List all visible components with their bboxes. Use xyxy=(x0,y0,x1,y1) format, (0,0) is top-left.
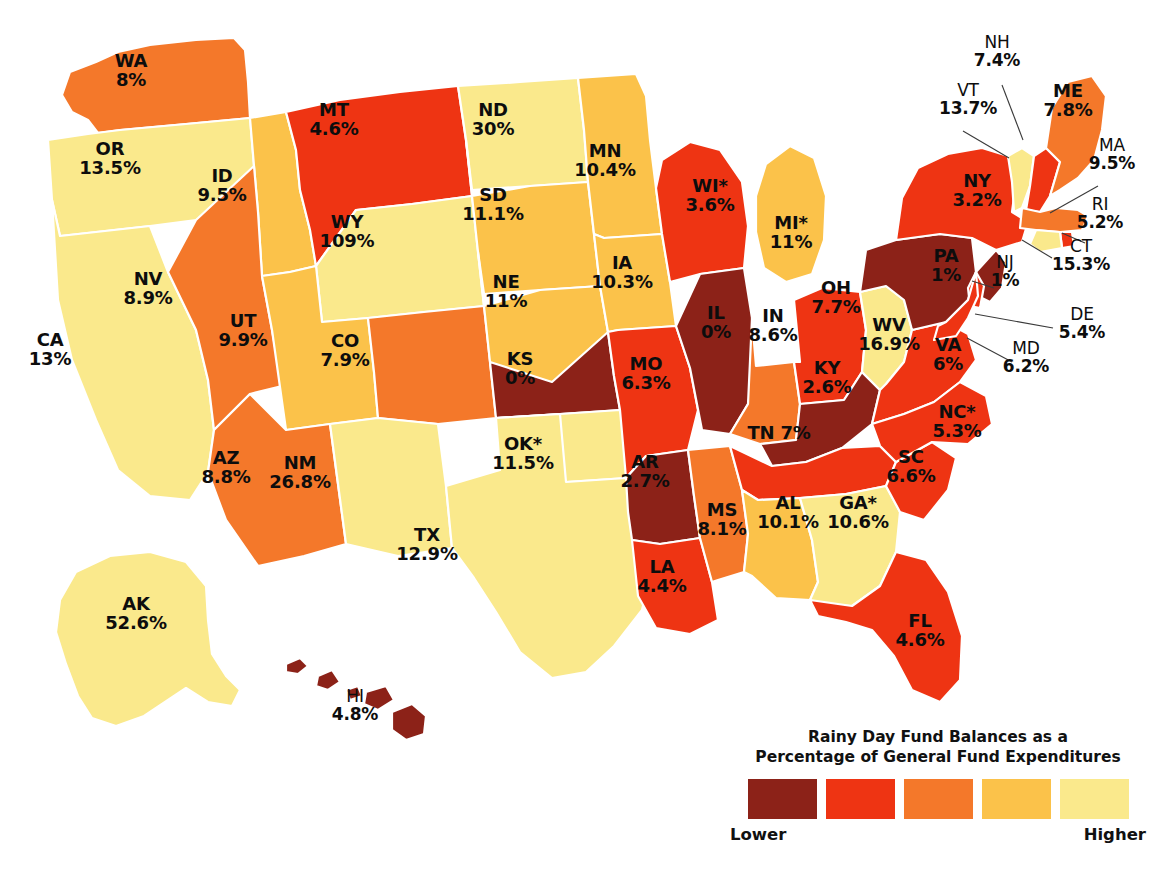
legend-swatch-3 xyxy=(904,779,973,819)
legend-swatches xyxy=(728,779,1148,819)
state-shape-co[interactable] xyxy=(368,306,496,424)
state-shape-hi[interactable] xyxy=(364,686,394,710)
state-shape-nm[interactable] xyxy=(330,418,452,556)
state-shape-hi[interactable] xyxy=(392,704,426,740)
state-shape-ct[interactable] xyxy=(1030,230,1062,252)
leader-line-de xyxy=(975,314,1053,328)
legend-title-line2: Percentage of General Fund Expenditures xyxy=(755,748,1120,766)
legend-title-line1: Rainy Day Fund Balances as a xyxy=(808,728,1068,746)
legend-swatch-1 xyxy=(748,779,817,819)
state-shape-mn[interactable] xyxy=(578,74,662,238)
leader-line-nh xyxy=(1002,85,1023,140)
state-shape-hi[interactable] xyxy=(316,670,340,690)
state-shape-ma[interactable] xyxy=(1020,208,1088,232)
state-shape-wa[interactable] xyxy=(62,38,250,133)
state-shape-hi[interactable] xyxy=(346,686,362,700)
legend-swatch-2 xyxy=(826,779,895,819)
legend-lower-label: Lower xyxy=(730,825,786,844)
legend-swatch-4 xyxy=(982,779,1051,819)
state-shape-mi[interactable] xyxy=(756,146,826,282)
state-shape-ak[interactable] xyxy=(56,552,240,726)
state-shape-hi[interactable] xyxy=(286,658,308,674)
legend-higher-label: Higher xyxy=(1084,825,1146,844)
legend-end-labels: Lower Higher xyxy=(728,825,1148,844)
legend-title: Rainy Day Fund Balances as a Percentage … xyxy=(728,728,1148,768)
state-shape-wi[interactable] xyxy=(656,142,748,282)
map-legend: Rainy Day Fund Balances as a Percentage … xyxy=(728,728,1148,844)
state-shape-nd[interactable] xyxy=(458,78,588,190)
us-choropleth-map: WA8%OR13.5%CA13%ID9.5%NV8.9%MT4.6%WY109%… xyxy=(0,0,1164,883)
legend-swatch-5 xyxy=(1060,779,1129,819)
state-shape-me[interactable] xyxy=(1046,76,1106,196)
